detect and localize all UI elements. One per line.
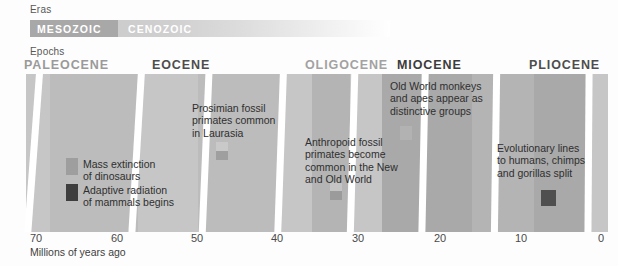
epoch-label-oligocene: OLIGOCENE: [305, 58, 388, 72]
era-block-mesozoic: MESOZOIC: [30, 20, 118, 37]
timeline-figure: Eras MESOZOIC CENOZOIC Epochs PALEOCENE …: [0, 0, 618, 266]
legend-adaptive-radiation: Adaptive radiation of mammals begins: [66, 184, 174, 208]
eras-caption: Eras: [30, 4, 51, 15]
marker-upper-half: [400, 126, 412, 140]
axis-tick: 40: [271, 232, 283, 244]
axis-tick: 30: [352, 232, 364, 244]
epochs-caption: Epochs: [30, 46, 65, 57]
legend-mass-extinction: Mass extinction of dinosaurs: [66, 158, 155, 182]
event-marker-prosimian: [216, 142, 228, 160]
annotation-old-world: Old World monkeys and apes appear as dis…: [390, 80, 483, 117]
axis-tick: 20: [434, 232, 446, 244]
period-divider: [584, 74, 592, 232]
axis-tick: 50: [191, 232, 203, 244]
axis-tick: 70: [30, 232, 42, 244]
legend-swatch-adaptive-radiation: [66, 184, 78, 201]
legend-swatch-mass-extinction: [66, 158, 78, 175]
epoch-label-eocene: EOCENE: [152, 58, 210, 72]
legend-label-adaptive-radiation: Adaptive radiation of mammals begins: [83, 184, 174, 208]
axis-tick: 60: [111, 232, 123, 244]
annotation-evolutionary: Evolutionary lines to humans, chimps and…: [497, 142, 585, 179]
epoch-label-pliocene: PLIOCENE: [529, 58, 600, 72]
timeline-body: Mass extinction of dinosaurs Adaptive ra…: [0, 74, 618, 232]
marker-upper-half: [541, 190, 556, 206]
epoch-label-paleocene: PALEOCENE: [24, 58, 109, 72]
era-bar: MESOZOIC CENOZOIC: [30, 20, 390, 37]
axis-title: Millions of years ago: [30, 246, 126, 258]
epoch-label-miocene: MIOCENE: [397, 58, 462, 72]
time-axis: 70 60 50 40 30 20 10 0 Millions of years…: [0, 232, 618, 266]
era-block-cenozoic: CENOZOIC: [121, 20, 376, 37]
marker-upper-half: [216, 142, 228, 151]
event-marker-old-world: [400, 126, 412, 140]
marker-lower-half: [330, 191, 342, 200]
band-segment: [590, 74, 608, 232]
event-marker-hominid-split: [541, 190, 556, 206]
legend-label-mass-extinction: Mass extinction of dinosaurs: [83, 158, 155, 182]
marker-lower-half: [216, 151, 228, 160]
annotation-anthropoid: Anthropoid fossil primates become common…: [305, 136, 398, 186]
axis-tick: 0: [598, 232, 604, 244]
annotation-prosimian: Prosimian fossil primates common in Laur…: [192, 102, 275, 139]
axis-tick: 10: [515, 232, 527, 244]
